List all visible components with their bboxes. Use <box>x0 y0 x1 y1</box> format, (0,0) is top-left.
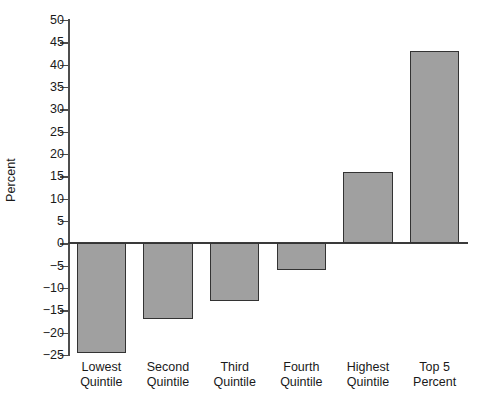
y-tick-label: 45 <box>50 35 64 49</box>
y-tick-label: 40 <box>50 58 64 72</box>
bar-3 <box>210 243 259 301</box>
bar-4 <box>277 243 326 270</box>
x-axis-label-line1: Third <box>220 360 248 374</box>
y-tick-label: 10 <box>50 192 64 206</box>
x-axis-labels: LowestQuintileSecondQuintileThirdQuintil… <box>68 360 468 406</box>
x-axis-label-line2: Quintile <box>335 375 402 390</box>
y-axis-title-text: Percent <box>4 158 18 202</box>
x-axis-label-line1: Fourth <box>283 360 319 374</box>
y-tick-label: 35 <box>50 80 64 94</box>
x-axis-label-2: SecondQuintile <box>135 360 202 390</box>
y-tick-label: −20 <box>43 326 64 340</box>
zero-baseline <box>68 242 468 244</box>
y-axis-title: Percent <box>0 0 22 360</box>
bar-6 <box>410 51 459 243</box>
x-axis-label-line2: Quintile <box>135 375 202 390</box>
x-axis-label-line1: Highest <box>347 360 389 374</box>
bar-1 <box>77 243 126 352</box>
y-tick-label: 5 <box>57 214 64 228</box>
x-axis-label-line2: Percent <box>401 375 468 390</box>
y-tick-label: 0 <box>57 236 64 250</box>
x-axis-label-5: HighestQuintile <box>335 360 402 390</box>
y-tick-label: −15 <box>43 303 64 317</box>
x-axis-label-line2: Quintile <box>268 375 335 390</box>
y-tick-label: 20 <box>50 147 64 161</box>
y-tick-label: 50 <box>50 13 64 27</box>
y-tick-label: 30 <box>50 102 64 116</box>
x-axis-label-line1: Lowest <box>82 360 122 374</box>
x-axis-label-line1: Top 5 <box>419 360 450 374</box>
x-axis-label-3: ThirdQuintile <box>201 360 268 390</box>
bar-chart: Percent 50454035302520151050−5−10−15−20−… <box>0 0 481 407</box>
x-axis-label-line2: Quintile <box>68 375 135 390</box>
x-axis-label-4: FourthQuintile <box>268 360 335 390</box>
x-axis-label-line1: Second <box>147 360 189 374</box>
y-tick-label: −25 <box>43 348 64 362</box>
x-axis-label-1: LowestQuintile <box>68 360 135 390</box>
y-tick-label: 25 <box>50 125 64 139</box>
y-tick-label: −5 <box>50 259 64 273</box>
x-axis-label-6: Top 5Percent <box>401 360 468 390</box>
plot-area: 50454035302520151050−5−10−15−20−25 <box>68 20 468 355</box>
x-axis-label-line2: Quintile <box>201 375 268 390</box>
bar-5 <box>343 172 392 243</box>
bar-2 <box>143 243 192 319</box>
y-tick-label: 15 <box>50 169 64 183</box>
y-tick-label: −10 <box>43 281 64 295</box>
